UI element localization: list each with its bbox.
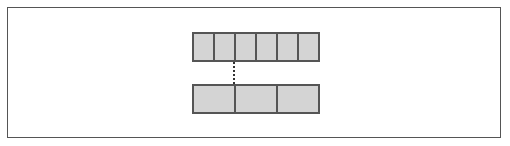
top-array-cell [236,34,257,60]
top-array-cell [299,34,318,60]
diagram-frame [7,7,501,138]
bottom-array-cell [194,86,236,112]
top-array-cell [278,34,299,60]
bottom-array-cell [236,86,278,112]
top-array-cell [194,34,215,60]
dotted-connector-line [233,62,235,84]
top-array-row [192,32,320,62]
bottom-array-row [192,84,320,114]
top-array-cell [215,34,236,60]
top-array-cell [257,34,278,60]
bottom-array-cell [278,86,318,112]
